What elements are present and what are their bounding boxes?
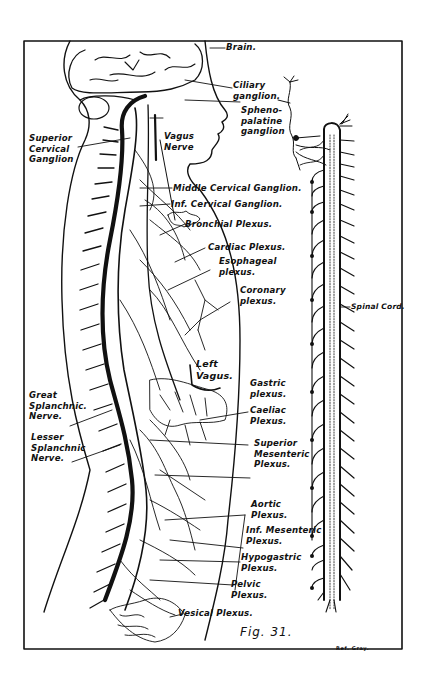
label-vesical-plexus: Vesical Plexus. xyxy=(178,608,253,619)
label-esophageal-plexus: Esophageal plexus. xyxy=(219,256,277,277)
label-hypogastric-plexus: Hypogastric Plexus. xyxy=(241,552,302,573)
figure-frame xyxy=(24,41,402,649)
label-great-splanchnic-nerve: Great Splanchnic. Nerve. xyxy=(29,390,87,422)
anatomical-figure: Brain. Ciliary ganglion. Spheno- palatin… xyxy=(0,0,427,682)
label-left-vagus: Left Vagus. xyxy=(196,358,233,382)
label-caeliac-plexus: Caeliac Plexus. xyxy=(250,405,287,426)
label-coronary-plexus: Coronary plexus. xyxy=(240,285,286,306)
label-bronchial-plexus: Bronchial Plexus. xyxy=(185,219,272,230)
label-brain: Brain. xyxy=(226,42,256,53)
nervous-system-drawing xyxy=(0,0,427,682)
label-gastric-plexus: Gastric plexus. xyxy=(250,378,286,399)
label-middle-cervical-ganglion: Middle Cervical Ganglion. xyxy=(173,183,302,194)
label-sphenopalatine-ganglion: Spheno- palatine ganglion xyxy=(241,105,285,137)
label-vagus-nerve: Vagus Nerve xyxy=(164,131,194,152)
label-superior-mesenteric-plexus: Superior Mesenteric Plexus. xyxy=(254,438,310,470)
label-aortic-plexus: Aortic Plexus. xyxy=(251,499,288,520)
label-pelvic-plexus: Pelvic Plexus. xyxy=(231,579,268,600)
label-cardiac-plexus: Cardiac Plexus. xyxy=(208,242,285,253)
label-spinal-cord: Spinal Cord. xyxy=(351,302,405,313)
label-superior-cervical-ganglion: Superior Cervical Ganglion xyxy=(29,133,74,165)
label-ciliary-ganglion: Ciliary ganglion. xyxy=(233,80,280,101)
label-inf-mesenteric-plexus: Inf. Mesenteric Plexus. xyxy=(246,525,322,546)
label-lesser-splanchnic-nerve: Lesser Splanchnic Nerve. xyxy=(31,432,86,464)
label-inf-cervical-ganglion: Inf. Cervical Ganglion. xyxy=(171,199,283,210)
figure-caption: Fig. 31. xyxy=(240,627,293,638)
figure-credit: Ref. Gray. xyxy=(336,643,369,654)
